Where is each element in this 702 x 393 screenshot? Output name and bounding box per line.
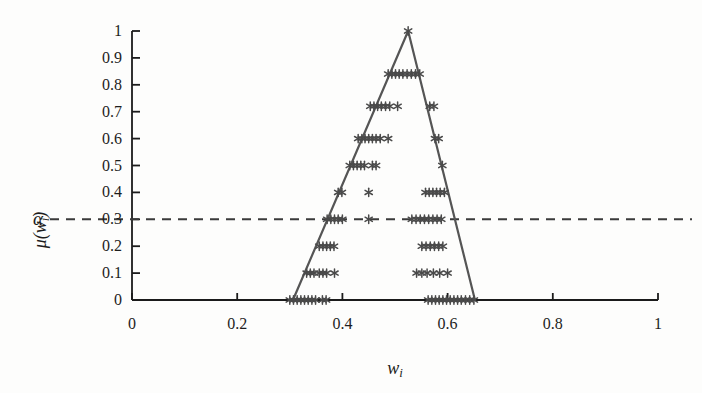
scatter-point — [436, 269, 443, 277]
x-tick-label-2: 0.4 — [332, 316, 352, 332]
scatter-point — [430, 269, 437, 277]
x-tick-label-5: 1 — [654, 316, 662, 332]
x-tick-label-0: 0 — [128, 316, 136, 332]
scatter-point — [382, 102, 389, 110]
scatter-point — [435, 242, 442, 250]
triangle-outline — [293, 31, 475, 300]
y-tick-label-7: 0.7 — [70, 104, 122, 120]
scatter-point — [331, 269, 338, 277]
scatter-point — [418, 242, 425, 250]
scatter-point — [408, 70, 415, 78]
triangular-membership-curve — [293, 31, 475, 300]
scatter-point — [365, 188, 372, 196]
x-tick-label-3: 0.6 — [438, 316, 458, 332]
scatter-point — [431, 242, 438, 250]
scatter-point — [405, 27, 412, 35]
scatter-point — [403, 70, 410, 78]
x-axis-label: wi — [387, 358, 403, 381]
scatter-point — [377, 134, 384, 142]
y-tick-label-5: 0.5 — [70, 158, 122, 174]
scatter-point — [394, 102, 401, 110]
y-tick-label-6: 0.6 — [70, 131, 122, 147]
scatter-point — [413, 269, 420, 277]
scatter-point — [422, 242, 429, 250]
y-tick-label-9: 0.9 — [70, 50, 122, 66]
y-tick-label-4: 0.4 — [70, 184, 122, 200]
y-tick-label-1: 0.1 — [70, 265, 122, 281]
scatter-point — [430, 102, 437, 110]
alpha-symbol-label: α — [33, 208, 43, 230]
y-tick-label-8: 0.8 — [70, 77, 122, 93]
x-tick-label-1: 0.2 — [227, 316, 247, 332]
y-tick-label-10: 1 — [70, 23, 122, 39]
x-axis-label-subscript: i — [399, 365, 403, 380]
scatter-point — [386, 102, 393, 110]
y-tick-label-2: 0.2 — [70, 238, 122, 254]
x-axis-label-text: w — [387, 358, 399, 378]
scatter-point — [423, 269, 430, 277]
scatter-point — [444, 269, 451, 277]
scatter-point — [385, 134, 392, 142]
y-tick-label-3: 0.3 — [70, 211, 122, 227]
scatter-point — [439, 242, 446, 250]
scatter-points-group — [286, 27, 477, 304]
scatter-point — [418, 269, 425, 277]
x-tick-label-4: 0.8 — [543, 316, 563, 332]
y-tick-label-0: 0 — [70, 292, 122, 308]
chart-figure: 00.10.20.30.40.50.60.70.80.91 00.20.40.6… — [0, 0, 702, 393]
scatter-point — [427, 242, 434, 250]
